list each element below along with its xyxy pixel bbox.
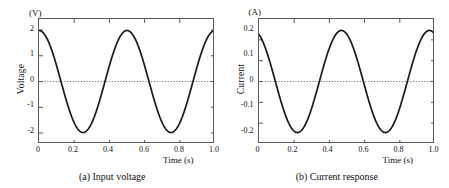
panel-current-response: (A) Current 0.2 0.1 0 -0.1 -0.2 bbox=[225, 0, 449, 188]
y-tick-label: 2 bbox=[10, 25, 34, 33]
x-tick-label: 0.6 bbox=[134, 146, 154, 154]
unit-label-voltage: (V) bbox=[29, 9, 42, 18]
x-tick-label: 0.6 bbox=[354, 146, 374, 154]
plot-area-current bbox=[258, 18, 434, 143]
x-tick-label: 0.2 bbox=[63, 146, 83, 154]
x-axis-title-time: Time (s) bbox=[163, 156, 193, 165]
unit-label-current: (A) bbox=[249, 8, 262, 17]
y-tick-label: 0.1 bbox=[225, 50, 254, 58]
x-tick-label: 0.2 bbox=[283, 146, 303, 154]
tick-marks-bottom bbox=[294, 140, 400, 143]
tick-marks-bottom bbox=[74, 140, 180, 143]
x-tick-label: 0.8 bbox=[389, 146, 409, 154]
tick-marks-right bbox=[431, 40, 434, 123]
x-tick-label: 1.0 bbox=[424, 146, 444, 154]
panel-caption-b: (b) Current response bbox=[225, 172, 449, 182]
y-tick-label: 0 bbox=[10, 76, 34, 84]
x-tick-label: 0.4 bbox=[98, 146, 118, 154]
x-tick-label: 0.4 bbox=[318, 146, 338, 154]
plot-area-voltage bbox=[38, 18, 214, 143]
x-tick-label: 0 bbox=[248, 146, 268, 154]
y-tick-label: 1 bbox=[10, 50, 34, 58]
tick-marks-top bbox=[294, 19, 400, 23]
x-tick-label: 1.0 bbox=[204, 146, 224, 154]
x-axis-title-time: Time (s) bbox=[383, 156, 413, 165]
y-tick-label: -0.1 bbox=[225, 101, 254, 109]
y-tick-label: -1 bbox=[10, 101, 34, 109]
tick-marks-right bbox=[211, 30, 214, 133]
voltage-waveform-svg bbox=[39, 19, 214, 143]
y-tick-label: 0.2 bbox=[225, 25, 254, 33]
x-tick-label: 0.8 bbox=[169, 146, 189, 154]
current-waveform-svg bbox=[259, 19, 434, 143]
tick-marks-left bbox=[259, 40, 263, 123]
y-tick-label: -0.2 bbox=[225, 127, 254, 135]
panel-caption-a: (a) Input voltage bbox=[0, 172, 225, 182]
tick-marks-left bbox=[39, 30, 43, 133]
y-tick-label: -2 bbox=[10, 127, 34, 135]
panel-input-voltage: (V) Voltage 2 1 0 -1 -2 bbox=[0, 0, 225, 188]
x-tick-label: 0 bbox=[28, 146, 48, 154]
figure-container: (V) Voltage 2 1 0 -1 -2 bbox=[0, 0, 449, 188]
tick-marks-top bbox=[74, 19, 180, 23]
y-tick-label: 0 bbox=[225, 76, 254, 84]
